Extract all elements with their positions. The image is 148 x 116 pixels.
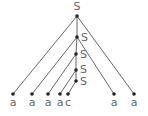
terminal-label: a [111, 96, 118, 109]
nonterminal-node-dot [74, 52, 78, 56]
terminal-label: a [45, 96, 52, 109]
nonterminal-label: S [80, 48, 87, 61]
tree-edge [68, 81, 76, 94]
nonterminal-node-dot [74, 79, 78, 83]
tree-labels: SSSSSaaaacaa [10, 0, 138, 109]
nonterminal-node-dot [75, 14, 79, 18]
tree-edges [13, 16, 134, 94]
tree-nodes [11, 14, 136, 96]
tree-edge [76, 37, 77, 54]
nonterminal-node-dot [74, 68, 78, 72]
terminal-label: a [131, 96, 138, 109]
nonterminal-node-dot [75, 35, 79, 39]
terminal-label: a [57, 96, 64, 109]
nonterminal-label: S [81, 31, 88, 44]
terminal-label: a [10, 96, 17, 109]
terminal-label: a [29, 96, 36, 109]
nonterminal-label: S [80, 75, 87, 88]
nonterminal-label: S [74, 0, 81, 13]
terminal-label: c [65, 96, 71, 109]
parse-tree-diagram: SSSSSaaaacaa [0, 0, 148, 116]
